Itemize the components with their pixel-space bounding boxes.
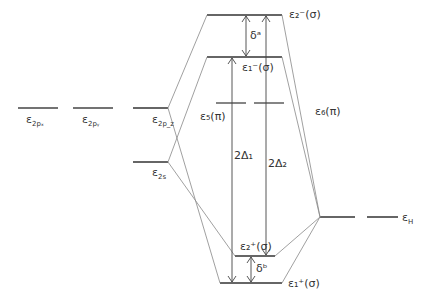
connector bbox=[282, 57, 320, 217]
label-e1-minus: ε₁⁻(σ) bbox=[242, 62, 274, 73]
connector bbox=[168, 15, 207, 108]
label-e2py: ε2pᵧ bbox=[82, 114, 99, 128]
label-two-delta-1: 2Δ₁ bbox=[234, 150, 253, 161]
connector bbox=[275, 217, 320, 256]
label-e6-pi: ε₆(π) bbox=[315, 106, 341, 117]
mo-diagram bbox=[0, 0, 428, 304]
connector bbox=[168, 108, 220, 283]
label-e1-plus: ε₁⁺(σ) bbox=[288, 278, 320, 289]
connector bbox=[168, 162, 235, 256]
label-e2px: ε2pₓ bbox=[26, 114, 44, 128]
label-eh: εH bbox=[402, 212, 413, 226]
delta-a-arrow bbox=[242, 16, 250, 56]
label-delta-a: δᵃ bbox=[250, 30, 261, 41]
label-two-delta-2: 2Δ₂ bbox=[268, 158, 287, 169]
label-e2-plus: ε₂⁺(σ) bbox=[240, 241, 272, 252]
connector bbox=[282, 217, 320, 283]
label-delta-b: δᵇ bbox=[256, 263, 267, 274]
label-e2pz: ε2p_z bbox=[152, 114, 174, 128]
label-e2s: ε2s bbox=[152, 167, 166, 181]
label-e5-pi: ε₅(π) bbox=[200, 111, 226, 122]
two-delta-2-arrow bbox=[262, 16, 270, 255]
delta-b-arrow bbox=[247, 257, 255, 282]
label-e2-minus: ε₂⁻(σ) bbox=[289, 9, 321, 20]
